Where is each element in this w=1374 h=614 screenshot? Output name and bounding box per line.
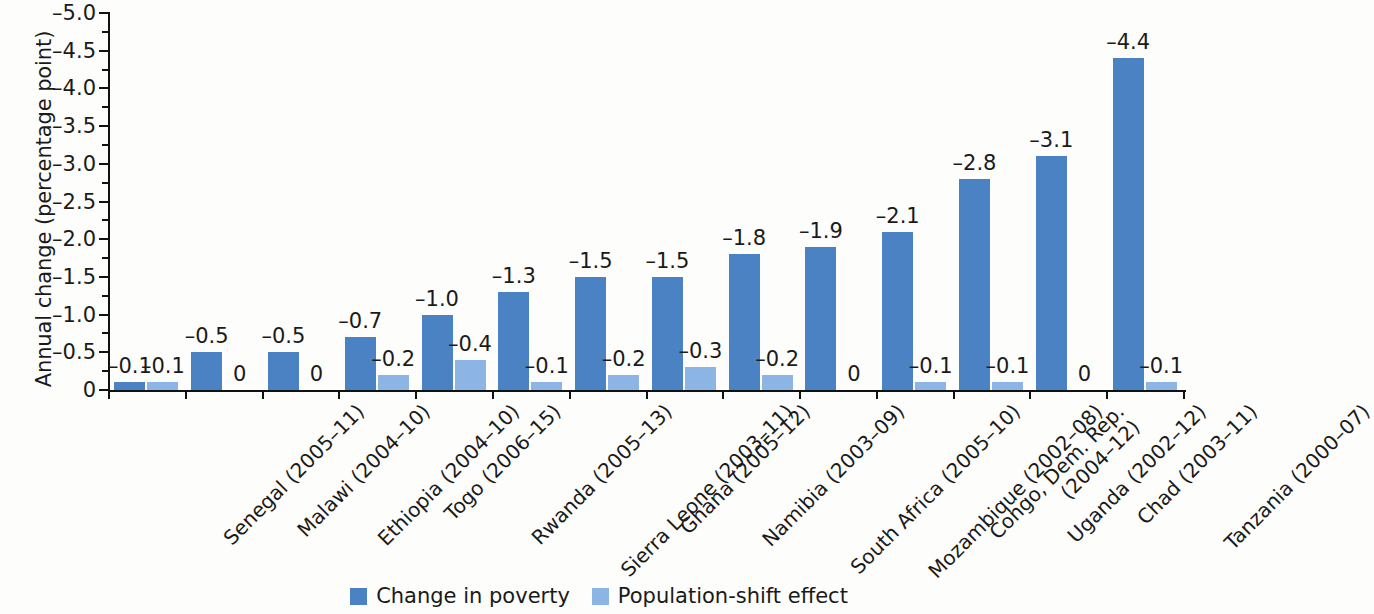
bar-change-in-poverty[interactable]	[652, 277, 683, 390]
y-tick-label: –4.5	[52, 39, 96, 63]
y-tick-mark	[99, 87, 108, 89]
bar-value-label: –1.3	[492, 264, 536, 288]
y-tick-label: –2.0	[52, 227, 96, 251]
bar-change-in-poverty[interactable]	[805, 247, 836, 390]
bar-group: –1.0–0.4	[415, 13, 492, 390]
y-tick-mark	[99, 314, 108, 316]
bar-value-label: 0	[847, 362, 860, 386]
bar-population-shift-effect[interactable]	[1146, 382, 1177, 390]
bar-population-shift-effect[interactable]	[685, 367, 716, 390]
plot-area: 0–0.5–1.0–1.5–2.0–2.5–3.0–3.5–4.0–4.5–5.…	[108, 13, 1183, 390]
x-tick-mark	[338, 390, 340, 399]
bar-change-in-poverty[interactable]	[1036, 156, 1067, 390]
x-tick-mark	[415, 390, 417, 399]
y-tick-label: –3.5	[52, 114, 96, 138]
y-tick-mark	[99, 12, 108, 14]
bar-value-label: –0.1	[1139, 354, 1183, 378]
y-tick-label: –2.5	[52, 190, 96, 214]
bar-value-label: –2.8	[953, 151, 997, 175]
bar-population-shift-effect[interactable]	[608, 375, 639, 390]
bar-group: –2.1–0.1	[876, 13, 953, 390]
bar-population-shift-effect[interactable]	[992, 382, 1023, 390]
bar-value-label: –0.2	[602, 347, 646, 371]
chart-legend: Change in povertyPopulation-shift effect	[0, 584, 1198, 608]
bar-value-label: 0	[1078, 362, 1091, 386]
bar-group: –1.5–0.3	[646, 13, 723, 390]
x-tick-mark	[569, 390, 571, 399]
bar-group: –1.5–0.2	[569, 13, 646, 390]
legend-label: Population-shift effect	[618, 584, 848, 608]
bar-group: –1.3–0.1	[492, 13, 569, 390]
y-tick-mark	[99, 125, 108, 127]
bar-change-in-poverty[interactable]	[1113, 58, 1144, 390]
legend-item[interactable]: Population-shift effect	[592, 584, 848, 608]
bar-group: –0.1–0.1	[108, 13, 185, 390]
legend-swatch-icon	[592, 588, 609, 605]
bar-group: –4.4–0.1	[1106, 13, 1183, 390]
x-tick-mark	[646, 390, 648, 399]
bar-value-label: –3.1	[1029, 128, 1073, 152]
y-tick-label: –4.0	[52, 76, 96, 100]
x-tick-mark	[492, 390, 494, 399]
bar-change-in-poverty[interactable]	[268, 352, 299, 390]
bar-population-shift-effect[interactable]	[915, 382, 946, 390]
bar-value-label: –1.8	[722, 226, 766, 250]
x-tick-mark	[876, 390, 878, 399]
bar-group: –1.90	[799, 13, 876, 390]
bar-population-shift-effect[interactable]	[762, 375, 793, 390]
bar-value-label: –0.1	[986, 354, 1030, 378]
y-tick-label: 0	[83, 378, 96, 402]
bar-group: –0.50	[262, 13, 339, 390]
y-tick-label: –3.0	[52, 152, 96, 176]
bar-value-label: –0.2	[755, 347, 799, 371]
bar-group: –1.8–0.2	[722, 13, 799, 390]
legend-item[interactable]: Change in poverty	[350, 584, 570, 608]
x-tick-mark	[1029, 390, 1031, 399]
bar-value-label: –0.7	[338, 309, 382, 333]
x-tick-mark	[185, 390, 187, 399]
y-tick-mark	[99, 163, 108, 165]
bar-group: –3.10	[1029, 13, 1106, 390]
y-tick-mark	[99, 389, 108, 391]
x-tick-mark	[1183, 390, 1185, 399]
legend-label: Change in poverty	[376, 584, 570, 608]
bar-value-label: –0.1	[525, 354, 569, 378]
bar-population-shift-effect[interactable]	[147, 382, 178, 390]
bar-value-label: –1.5	[645, 249, 689, 273]
y-tick-label: –0.5	[52, 340, 96, 364]
x-tick-mark	[262, 390, 264, 399]
bar-value-label: –0.4	[448, 332, 492, 356]
x-tick-mark	[953, 390, 955, 399]
x-tick-mark	[799, 390, 801, 399]
bar-value-label: –0.1	[141, 354, 185, 378]
y-tick-mark	[99, 50, 108, 52]
y-tick-label: –1.5	[52, 265, 96, 289]
bar-population-shift-effect[interactable]	[378, 375, 409, 390]
x-tick-mark	[108, 390, 110, 399]
x-tick-mark	[1106, 390, 1108, 399]
bar-change-in-poverty[interactable]	[191, 352, 222, 390]
bar-group: –0.7–0.2	[338, 13, 415, 390]
bar-group: –0.50	[185, 13, 262, 390]
bar-value-label: 0	[233, 362, 246, 386]
bar-value-label: –1.0	[415, 287, 459, 311]
bar-value-label: –1.5	[569, 249, 613, 273]
bar-value-label: –1.9	[799, 219, 843, 243]
bar-change-in-poverty[interactable]	[114, 382, 145, 390]
bar-value-label: –0.1	[909, 354, 953, 378]
bar-value-label: 0	[310, 362, 323, 386]
bar-population-shift-effect[interactable]	[531, 382, 562, 390]
bar-change-in-poverty[interactable]	[575, 277, 606, 390]
y-tick-mark	[99, 201, 108, 203]
bar-population-shift-effect[interactable]	[455, 360, 486, 390]
bar-value-label: –4.4	[1106, 30, 1150, 54]
legend-swatch-icon	[350, 588, 367, 605]
bar-value-label: –0.3	[678, 339, 722, 363]
bar-value-label: –0.2	[371, 347, 415, 371]
bar-value-label: –0.5	[185, 324, 229, 348]
bar-value-label: –2.1	[876, 204, 920, 228]
bar-group: –2.8–0.1	[953, 13, 1030, 390]
y-tick-mark	[99, 351, 108, 353]
x-tick-mark	[722, 390, 724, 399]
